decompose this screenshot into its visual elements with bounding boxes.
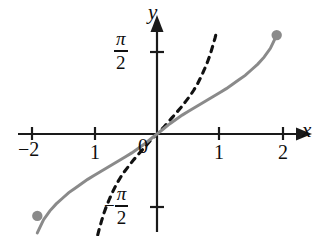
y-tick-label-pi-over-2: π 2 [114,29,128,73]
negative-pi-over-2-numerator: π [115,184,129,204]
y-axis-label: y [148,2,157,23]
lower-left-endpoint-dot [32,211,42,221]
graph-figure: x y 0 −2 1 1 2 π 2 − π 2 [0,0,323,236]
y-tick-label-negative-pi-over-2: − π 2 [104,184,128,228]
x-axis-label: x [302,120,311,141]
x-tick-label--2: −2 [18,139,39,159]
upper-right-endpoint-dot [272,30,282,40]
negative-pi-over-2-fraction: π 2 [115,184,129,228]
negative-pi-over-2-sign: − [104,196,115,215]
negative-pi-over-2-denominator: 2 [115,208,129,228]
origin-label: 0 [138,136,148,156]
pi-over-2-denominator: 2 [114,53,128,73]
x-tick-label--1: 1 [90,142,100,162]
pi-over-2-numerator: π [114,29,128,49]
pi-over-2-fraction: π 2 [114,29,128,73]
x-tick-label-2: 2 [278,142,288,162]
x-tick-label-1: 1 [214,142,224,162]
graph-canvas [0,0,323,236]
